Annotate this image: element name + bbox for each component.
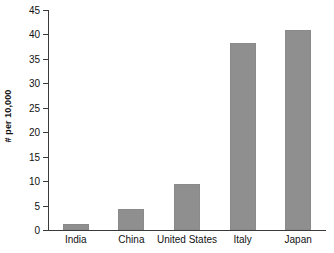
bars-layer <box>48 10 326 230</box>
y-tick-label-25: 25 <box>29 102 40 113</box>
y-tick-label-30: 30 <box>29 78 40 89</box>
y-tick-label-35: 35 <box>29 53 40 64</box>
plot-area: 051015202530354045 IndiaChinaUnited Stat… <box>48 10 326 230</box>
y-tick-label-15: 15 <box>29 151 40 162</box>
y-axis-title-text: # per 10,000 <box>3 90 13 143</box>
y-tick-label-45: 45 <box>29 5 40 16</box>
x-axis-line <box>48 230 326 231</box>
x-label-japan: Japan <box>285 234 312 245</box>
bar-chart: # per 10,000 051015202530354045 IndiaChi… <box>0 0 334 253</box>
bar-italy <box>230 43 256 230</box>
y-tick-label-20: 20 <box>29 127 40 138</box>
y-tick-label-10: 10 <box>29 176 40 187</box>
bar-china <box>118 209 144 230</box>
y-tick-label-40: 40 <box>29 29 40 40</box>
y-tick-label-0: 0 <box>34 225 40 236</box>
bar-united-states <box>174 184 200 230</box>
bar-india <box>63 224 89 230</box>
y-tick-label-5: 5 <box>34 200 40 211</box>
x-label-india: India <box>65 234 87 245</box>
bar-japan <box>285 30 311 230</box>
x-label-china: China <box>118 234 144 245</box>
x-label-italy: Italy <box>233 234 251 245</box>
y-axis-title: # per 10,000 <box>0 0 16 232</box>
y-tick-0 <box>43 230 48 231</box>
x-label-united-states: United States <box>157 234 217 245</box>
